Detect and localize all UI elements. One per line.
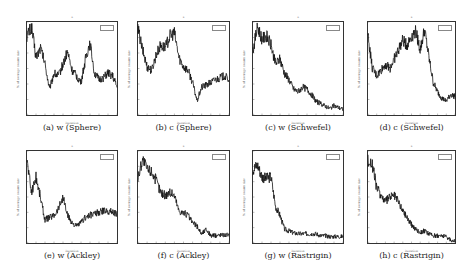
panel-top-title: x (174, 15, 194, 19)
legend (326, 154, 340, 160)
plot-area (137, 21, 230, 116)
legend (212, 154, 226, 160)
legend (212, 25, 226, 31)
plot-area (137, 150, 230, 244)
line-series (368, 151, 455, 243)
panel-top-title: x (174, 144, 194, 148)
panel-top-title: x (288, 15, 308, 19)
y-axis-label: % of average swarm size (16, 167, 20, 227)
legend (100, 25, 114, 31)
y-axis-label: % of average swarm size (357, 167, 361, 227)
plot-area (252, 21, 344, 116)
y-axis-label: % of average swarm size (127, 167, 131, 227)
y-axis-label: % of average swarm size (127, 39, 131, 99)
legend (438, 25, 452, 31)
panel-caption: (b) c (Sphere) (119, 123, 249, 132)
legend (438, 154, 452, 160)
panel-caption: (h) c (Rastrigin) (347, 251, 472, 260)
plot-area (252, 150, 344, 244)
line-series (138, 151, 229, 243)
y-axis-label: % of average swarm size (357, 39, 361, 99)
plot-area (367, 150, 456, 244)
panel-caption: (g) w (Rastrigin) (233, 251, 363, 260)
legend (100, 154, 114, 160)
panel-caption: (d) c (Schwefel) (347, 123, 472, 132)
line-series (253, 22, 343, 115)
plot-area (367, 21, 456, 116)
panel-top-title: x (62, 144, 82, 148)
legend (326, 25, 340, 31)
panel-top-title: x (402, 15, 422, 19)
panel-caption: (f) c (Ackley) (119, 251, 249, 260)
panel-top-title: x (402, 144, 422, 148)
line-series (253, 151, 343, 243)
line-series (138, 22, 229, 115)
panel-top-title: x (62, 15, 82, 19)
plot-area (26, 21, 118, 116)
line-series (368, 22, 455, 115)
plot-area (26, 150, 118, 244)
line-series (27, 22, 117, 115)
y-axis-label: % of average swarm size (242, 167, 246, 227)
panel-top-title: x (288, 144, 308, 148)
panel-caption: (e) w (Ackley) (7, 251, 137, 260)
y-axis-label: % of average swarm size (16, 39, 20, 99)
panel-caption: (c) w (Schwefel) (233, 123, 363, 132)
panel-caption: (a) w (Sphere) (7, 123, 137, 132)
y-axis-label: % of average swarm size (242, 39, 246, 99)
line-series (27, 151, 117, 243)
